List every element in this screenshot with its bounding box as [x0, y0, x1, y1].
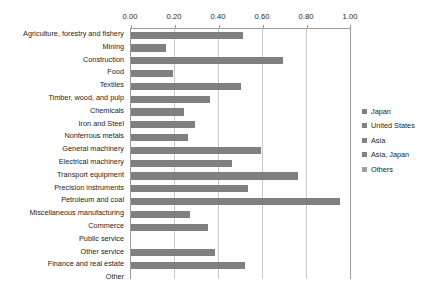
- category-label: Agriculture, forestry and fishery: [0, 30, 124, 38]
- bar-chart: 0.000.200.400.600.801.00 Agriculture, fo…: [0, 0, 438, 284]
- category-label: Timber, wood, and pulp: [0, 94, 124, 102]
- category-label: Other service: [0, 248, 124, 256]
- x-tick-label: 0.40: [198, 12, 238, 22]
- category-label: Electrical machinery: [0, 158, 124, 166]
- category-label: Nonferrous metals: [0, 132, 124, 140]
- x-tick-label: 1.00: [330, 12, 370, 22]
- legend-swatch-icon: [362, 167, 367, 172]
- legend-label: Asia, Japan: [371, 150, 409, 159]
- plot-area: [130, 28, 351, 279]
- bar: [131, 249, 215, 256]
- legend-swatch-icon: [362, 152, 367, 157]
- gridline: [262, 29, 263, 279]
- category-label: Commerce: [0, 222, 124, 230]
- bar: [131, 262, 245, 269]
- legend-label: United States: [371, 121, 415, 130]
- x-tick-mark: [350, 25, 351, 29]
- category-label: Miscellaneous manufacturing: [0, 209, 124, 217]
- category-label: Precision instruments: [0, 184, 124, 192]
- legend-swatch-icon: [362, 109, 367, 114]
- bar: [131, 160, 232, 167]
- bar: [131, 134, 188, 141]
- x-tick-mark: [175, 25, 176, 29]
- category-label: Finance and real estate: [0, 260, 124, 268]
- x-tick-mark: [219, 25, 220, 29]
- category-label: Food: [0, 68, 124, 76]
- x-tick-label: 0.60: [242, 12, 282, 22]
- bar: [131, 185, 248, 192]
- category-label: Transport equipment: [0, 171, 124, 179]
- bar: [131, 70, 173, 77]
- legend-swatch-icon: [362, 123, 367, 128]
- gridline: [306, 29, 307, 279]
- category-axis-labels: Agriculture, forestry and fisheryMiningC…: [0, 28, 128, 278]
- bar: [131, 172, 298, 179]
- x-tick-mark: [263, 25, 264, 29]
- bar: [131, 224, 208, 231]
- legend-item[interactable]: Japan: [362, 104, 436, 119]
- bar: [131, 147, 261, 154]
- legend-label: Japan: [371, 107, 391, 116]
- category-label: Textiles: [0, 81, 124, 89]
- legend-item[interactable]: Asia, Japan: [362, 148, 436, 163]
- x-tick-mark: [131, 25, 132, 29]
- category-label: Petroleum and coal: [0, 196, 124, 204]
- bar: [131, 32, 243, 39]
- bar: [131, 121, 195, 128]
- category-label: Public service: [0, 235, 124, 243]
- gridline: [350, 29, 351, 279]
- category-label: Chemicals: [0, 107, 124, 115]
- category-label: Iron and Steel: [0, 120, 124, 128]
- gridline: [218, 29, 219, 279]
- bar: [131, 198, 340, 205]
- legend-item[interactable]: Asia: [362, 133, 436, 148]
- x-tick-label: 0.20: [154, 12, 194, 22]
- legend-item[interactable]: United States: [362, 119, 436, 134]
- bar: [131, 57, 283, 64]
- x-tick-label: 0.00: [110, 12, 150, 22]
- chart-legend: JapanUnited StatesAsiaAsia, JapanOthers: [362, 104, 436, 177]
- x-tick-mark: [307, 25, 308, 29]
- bar: [131, 44, 166, 51]
- category-label: General machinery: [0, 145, 124, 153]
- legend-item[interactable]: Others: [362, 162, 436, 177]
- bar: [131, 211, 190, 218]
- legend-label: Others: [371, 165, 393, 174]
- x-tick-label: 0.80: [286, 12, 326, 22]
- legend-label: Asia: [371, 136, 385, 145]
- gridline: [174, 29, 175, 279]
- category-label: Construction: [0, 56, 124, 64]
- category-label: Mining: [0, 43, 124, 51]
- bar: [131, 96, 210, 103]
- bar: [131, 108, 184, 115]
- x-axis-tick-labels: 0.000.200.400.600.801.00: [130, 12, 350, 26]
- bar: [131, 83, 241, 90]
- legend-swatch-icon: [362, 138, 367, 143]
- category-label: Other: [0, 273, 124, 281]
